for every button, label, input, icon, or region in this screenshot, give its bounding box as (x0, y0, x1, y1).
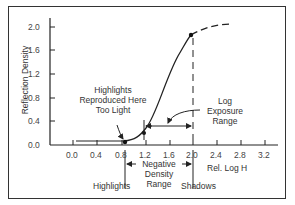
highlights-label: Highlights (93, 181, 130, 191)
y-axis-label: Reflection Density (20, 35, 30, 125)
x-tick-label: 0.8 (115, 150, 127, 160)
x-tick-label: 2.8 (234, 150, 246, 160)
highlight-point (123, 140, 127, 144)
y-tick-label: 0.0 (28, 140, 40, 150)
shadow-point (189, 33, 193, 37)
highlights-note: Highlights Reproduced Here Too Light (78, 85, 148, 115)
x-axis-label: Rel. Log H (207, 163, 247, 173)
x-tick-label: 3.2 (258, 150, 270, 160)
log-exposure-range-label: Log Exposure Range (200, 96, 250, 126)
curve-shoulder (191, 24, 232, 35)
x-tick-label: 2.0 (186, 150, 198, 160)
negative-density-range-label: Negative Density Range (136, 159, 182, 189)
shadows-label: Shadows (181, 181, 216, 191)
x-tick-label: 0.0 (66, 150, 78, 160)
x-tick-label: 2.4 (210, 150, 222, 160)
x-tick-label: 0.4 (90, 150, 102, 160)
y-tick-label: 2.0 (28, 22, 40, 32)
